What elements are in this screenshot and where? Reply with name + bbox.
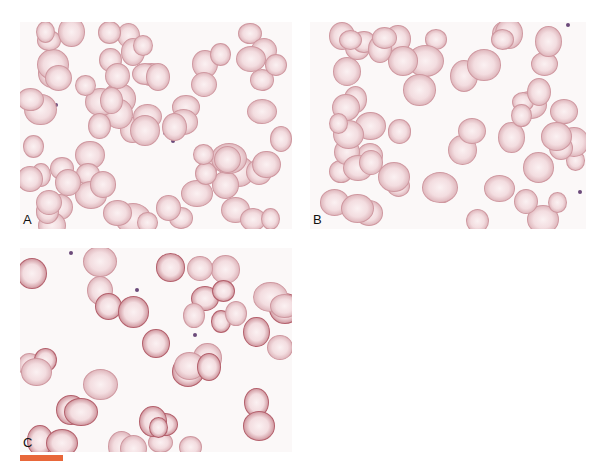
red-blood-cell xyxy=(88,113,111,139)
red-blood-cell xyxy=(225,301,247,326)
red-blood-cell xyxy=(458,118,486,144)
red-blood-cell xyxy=(120,435,147,452)
red-blood-cell xyxy=(484,175,515,202)
red-blood-cell xyxy=(378,162,410,192)
red-blood-cell xyxy=(197,353,222,381)
platelet xyxy=(69,251,73,255)
red-blood-cell xyxy=(193,144,213,165)
red-blood-cell xyxy=(100,87,123,114)
panel-b: B xyxy=(310,22,586,229)
red-blood-cell xyxy=(265,54,287,75)
red-blood-cell xyxy=(64,398,98,426)
panel-label: A xyxy=(23,213,32,226)
red-blood-cell xyxy=(467,49,501,81)
red-blood-cell xyxy=(341,194,374,223)
panel-label: B xyxy=(313,213,322,226)
red-blood-cell xyxy=(83,248,117,277)
red-blood-cell xyxy=(267,335,292,360)
red-blood-cell xyxy=(179,436,202,452)
red-blood-cell xyxy=(372,27,397,48)
red-blood-cell xyxy=(90,171,117,198)
red-blood-cell xyxy=(388,46,418,75)
red-blood-cell xyxy=(270,126,292,151)
red-blood-cell xyxy=(511,104,531,127)
red-blood-cell xyxy=(261,208,280,229)
red-blood-cell xyxy=(23,135,44,157)
red-blood-cell xyxy=(36,190,62,215)
red-blood-cell xyxy=(83,369,118,400)
platelet xyxy=(193,333,197,337)
red-blood-cell xyxy=(133,35,153,57)
red-blood-cell xyxy=(130,115,160,146)
red-blood-cell xyxy=(210,43,232,66)
red-blood-cell xyxy=(187,256,213,282)
red-blood-cell xyxy=(20,166,43,192)
red-blood-cell xyxy=(535,26,562,58)
red-blood-cell xyxy=(527,78,551,106)
red-blood-cell xyxy=(514,189,538,214)
red-blood-cell xyxy=(98,22,121,44)
red-blood-cell xyxy=(162,113,187,141)
red-blood-cell xyxy=(149,417,168,438)
red-blood-cell xyxy=(247,99,277,125)
red-blood-cell xyxy=(118,296,149,327)
red-blood-cell xyxy=(103,200,131,225)
red-blood-cell xyxy=(252,151,281,179)
red-blood-cell xyxy=(156,253,185,281)
red-blood-cell xyxy=(541,122,571,151)
platelet xyxy=(566,23,570,27)
red-blood-cell xyxy=(142,329,170,358)
red-blood-cell xyxy=(329,113,348,134)
red-blood-cell xyxy=(466,209,489,229)
red-blood-cell xyxy=(403,74,437,106)
red-blood-cell xyxy=(270,294,292,318)
red-blood-cell xyxy=(550,99,578,124)
platelet xyxy=(578,190,582,194)
red-blood-cell xyxy=(21,358,52,386)
red-blood-cell xyxy=(214,146,241,173)
red-blood-cell xyxy=(523,152,554,183)
red-blood-cell xyxy=(359,150,383,175)
red-blood-cell xyxy=(388,119,412,143)
red-blood-cell xyxy=(156,195,181,220)
platelet xyxy=(135,288,139,292)
red-blood-cell xyxy=(548,192,567,213)
red-blood-cell xyxy=(137,212,157,229)
red-blood-cell xyxy=(55,169,81,196)
panel-label: C xyxy=(23,436,32,449)
red-blood-cell xyxy=(212,280,235,302)
red-blood-cell xyxy=(58,22,84,47)
red-blood-cell xyxy=(46,429,78,453)
caption-accent-bar xyxy=(20,455,63,461)
red-blood-cell xyxy=(243,317,269,347)
red-blood-cell xyxy=(75,75,95,96)
panel-c: C xyxy=(20,248,292,452)
panel-a: A xyxy=(20,22,292,229)
red-blood-cell xyxy=(183,303,205,328)
red-blood-cell xyxy=(191,72,217,97)
red-blood-cell xyxy=(20,258,47,289)
red-blood-cell xyxy=(243,411,276,441)
red-blood-cell xyxy=(333,57,361,86)
red-blood-cell xyxy=(146,63,170,91)
red-blood-cell xyxy=(45,65,72,91)
red-blood-cell xyxy=(422,172,458,203)
